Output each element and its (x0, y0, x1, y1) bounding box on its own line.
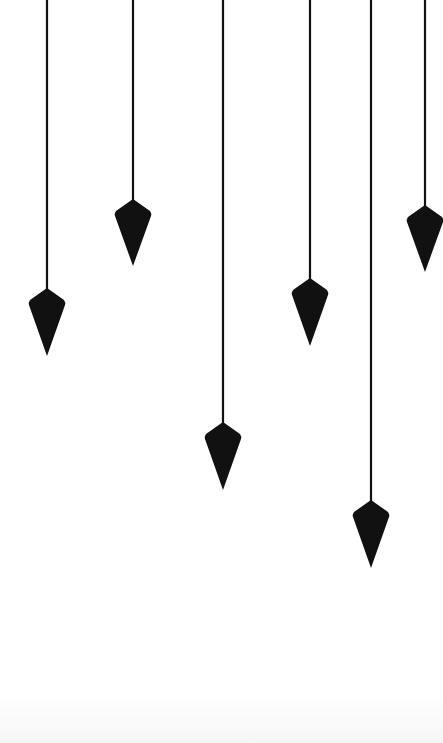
pendulum-1 (29, 0, 66, 356)
plumb-bob-icon (353, 500, 390, 568)
plumb-bob-icon (115, 199, 152, 266)
plumb-bob-icon (292, 278, 329, 346)
plumb-bob-icon (407, 205, 443, 272)
pendulum-illustration (0, 0, 443, 743)
pendulum-2 (115, 0, 152, 266)
pendulums-canvas (0, 0, 443, 743)
pendulum-5 (353, 0, 390, 568)
pendulum-6 (407, 0, 443, 272)
plumb-bob-icon (205, 422, 242, 490)
pendulum-3 (205, 0, 242, 490)
plumb-bob-icon (29, 288, 66, 356)
pendulum-4 (292, 0, 329, 346)
